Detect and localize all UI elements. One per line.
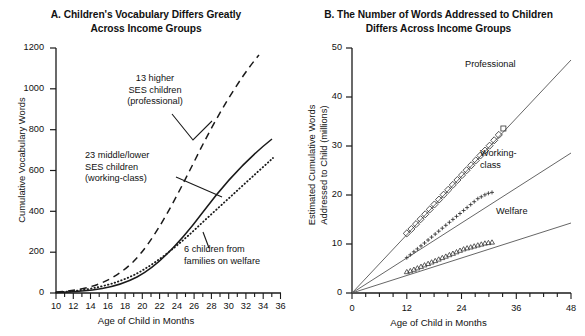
panel-b-xtick-48: 48 — [561, 303, 581, 313]
panel-a-annot-prof-line1: 13 higher — [136, 73, 174, 83]
panel-b-series-welfare — [404, 240, 494, 274]
panel-a-annot-welf-line2: families on welfare — [184, 256, 260, 266]
panel-a-annot-prof-line3: (professional) — [127, 96, 183, 106]
panel-a-y-ticks — [50, 48, 56, 293]
panel-a-annot-work-line2: SES children — [85, 162, 138, 172]
panel-a-annot-prof-line2: SES children — [128, 85, 181, 95]
panel-a: A. Children's Vocabulary Differs Greatly… — [0, 0, 292, 336]
panel-b-series-professional — [403, 126, 506, 237]
panel-a-ytick-0: 0 — [6, 287, 44, 297]
panel-b-label-working-line2: class — [480, 160, 501, 170]
panel-a-annot-work-line1: 23 middle/lower — [85, 150, 149, 160]
panel-b-label-professional: Professional — [465, 59, 516, 71]
panel-a-x-axis-label: Age of Child in Months — [0, 315, 292, 326]
panel-b-y-axis-label-line2: Addressed to Child (millions) — [318, 105, 329, 224]
panel-a-series-welfare — [56, 182, 272, 293]
panel-b-xtick-0: 0 — [342, 303, 362, 313]
panel-b-y-ticks — [346, 48, 352, 293]
panel-a-annot-welf-line1: 6 children from — [184, 244, 245, 254]
panel-b: B. The Number of Words Addressed to Chil… — [292, 0, 585, 336]
panel-b-fit-working-class — [352, 153, 571, 293]
panel-a-y-axis-label: Cumulative Vocabulary Words — [16, 35, 28, 285]
panel-b-label-welfare: Welfare — [496, 206, 528, 218]
panel-b-y-axis-label-line1: Estimated Cumulative Words — [306, 105, 317, 226]
panel-a-annotation-welfare: 6 children from families on welfare — [184, 244, 260, 267]
panel-b-label-working-line1: Working- — [480, 148, 517, 158]
panel-a-x-ticks — [56, 293, 281, 299]
panel-a-leader-working-class — [176, 177, 222, 197]
panel-b-label-working-class: Working- class — [480, 148, 517, 171]
panel-a-leader-professional — [172, 114, 212, 140]
panel-b-y-axis-label: Estimated Cumulative Words Addressed to … — [306, 40, 329, 290]
panel-a-annotation-working-class: 23 middle/lower SES children (working-cl… — [85, 150, 149, 185]
figure-container: A. Children's Vocabulary Differs Greatly… — [0, 0, 585, 336]
panel-a-annot-work-line3: (working-class) — [85, 173, 147, 183]
panel-b-xtick-24: 24 — [452, 303, 472, 313]
panel-b-xtick-36: 36 — [506, 303, 526, 313]
panel-a-xtick-36: 36 — [271, 301, 291, 311]
panel-b-xtick-12: 12 — [397, 303, 417, 313]
panel-a-annotation-professional: 13 higher SES children (professional) — [110, 73, 200, 108]
panel-b-x-ticks — [352, 293, 571, 299]
panel-b-x-axis-label: Age of Child in Months — [292, 317, 585, 328]
